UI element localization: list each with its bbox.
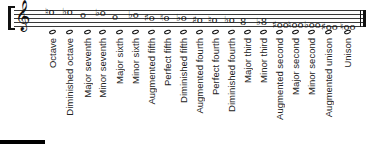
interval-label: Minor third (259, 38, 269, 83)
lower-note (84, 29, 92, 35)
upper-note: ♭o (95, 8, 106, 18)
lower-note (276, 29, 284, 35)
upper-note: ♭o (128, 10, 139, 20)
interval-label: Diminished octave (65, 38, 75, 116)
black-bar (0, 140, 45, 144)
system-bracket (8, 7, 11, 29)
interval-label: Octave (48, 38, 58, 68)
interval-label: Augmented second (275, 38, 285, 120)
lower-note (116, 29, 124, 35)
upper-note: 8 (240, 17, 246, 27)
upper-note: o (80, 10, 86, 20)
lower-note (344, 29, 352, 35)
lower-note (180, 29, 188, 35)
lower-note (164, 29, 172, 35)
treble-clef-icon: 𝄞 (15, 2, 30, 28)
interval-label: Diminished fourth (227, 38, 237, 112)
upper-note: ♭8 (256, 17, 267, 27)
interval-label: Major third (243, 38, 253, 83)
lower-note (212, 29, 220, 35)
lower-note (260, 29, 268, 35)
upper-note: ♮o (160, 13, 170, 23)
interval-label: Diminished fifth (179, 38, 189, 103)
interval-label: Major second (291, 38, 301, 95)
upper-note: ♭o (224, 15, 235, 25)
interval-label: Unison (343, 38, 353, 68)
interval-label: Augmented unison (324, 38, 334, 117)
lower-note (308, 29, 316, 35)
interval-label: Perfect fifth (163, 38, 173, 86)
upper-note: ♮o (208, 15, 218, 25)
bracket-top-hook (8, 6, 15, 8)
lower-note (196, 29, 204, 35)
interval-label: Augmented fifth (147, 38, 157, 105)
upper-note: ♯o (144, 13, 155, 23)
lower-note (49, 29, 57, 35)
lower-note (325, 29, 333, 35)
upper-note: ♭o (62, 7, 73, 17)
bracket-bottom-hook (8, 28, 15, 30)
final-barline-thick (363, 10, 366, 27)
lower-note (132, 29, 140, 35)
interval-label: Minor sixth (131, 38, 141, 84)
interval-label: Perfect fourth (211, 38, 221, 95)
lower-note (244, 29, 252, 35)
upper-note: ♮o (45, 7, 55, 17)
lower-note (292, 29, 300, 35)
upper-note: ♭o (176, 13, 187, 23)
final-barline-thin (360, 10, 361, 27)
lower-note (99, 29, 107, 35)
upper-note: ♯o (192, 15, 203, 25)
lower-note (148, 29, 156, 35)
upper-note: o (112, 12, 118, 22)
interval-label: Major sixth (115, 38, 125, 84)
interval-label: Augmented fourth (195, 38, 205, 114)
lower-note (66, 29, 74, 35)
interval-label: Major seventh (83, 38, 93, 98)
lower-note (228, 29, 236, 35)
interval-label: Minor seventh (98, 38, 108, 98)
interval-label: Minor second (307, 38, 317, 95)
